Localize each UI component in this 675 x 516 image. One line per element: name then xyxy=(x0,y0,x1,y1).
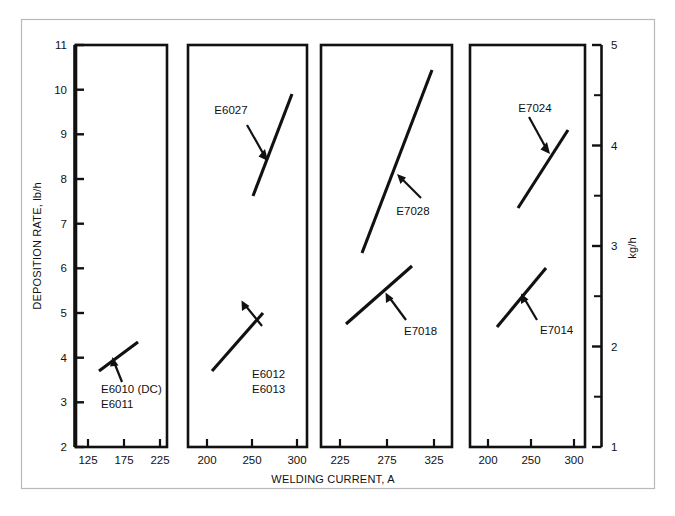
panel-3: 225 275 325 E7028 E7018 xyxy=(321,45,452,466)
panel-3-xtick-label-1: 225 xyxy=(330,454,349,466)
panel-4-xtick-label-1: 200 xyxy=(478,454,497,466)
series-label-e7024: E7024 xyxy=(518,102,552,114)
panel-4-xtick-label-3: 300 xyxy=(564,454,583,466)
x-axis-title: WELDING CURRENT, A xyxy=(271,473,395,485)
outer-frame-border xyxy=(22,20,655,489)
panel-2: 200 250 300 E6027 E6012 E6013 xyxy=(188,45,307,466)
panel-1-xtick-label-3: 225 xyxy=(150,454,169,466)
right-y-axis: 5 4 3 2 1 kg/h xyxy=(592,39,638,453)
panel-3-box xyxy=(321,45,452,447)
series-label-e6011: E6011 xyxy=(101,398,133,410)
left-tick-label-2: 2 xyxy=(61,441,67,453)
right-tick-label-5: 5 xyxy=(611,39,617,51)
panel-4-xtick-label-2: 250 xyxy=(521,454,540,466)
series-leader-e7014 xyxy=(524,298,537,320)
panel-1-xtick-label-2: 175 xyxy=(114,454,133,466)
left-tick-label-10: 10 xyxy=(54,84,67,96)
chart-svg: 11 10 9 8 7 6 5 4 3 2 DEPOSITION RATE, l… xyxy=(0,0,675,516)
series-label-e7014: E7014 xyxy=(540,324,574,336)
left-tick-label-7: 7 xyxy=(61,218,67,230)
series-label-e7028: E7028 xyxy=(396,205,429,217)
series-label-e6013: E6013 xyxy=(252,383,285,395)
series-label-e7018: E7018 xyxy=(404,325,437,337)
left-tick-label-5: 5 xyxy=(61,307,67,319)
panel-2-xtick-label-3: 300 xyxy=(287,454,306,466)
series-line-e6012-e6013 xyxy=(212,313,263,371)
series-leader-e6027 xyxy=(247,125,264,155)
deposition-rate-chart-figure: 11 10 9 8 7 6 5 4 3 2 DEPOSITION RATE, l… xyxy=(0,0,675,516)
right-tick-label-1: 1 xyxy=(611,441,617,453)
left-tick-label-6: 6 xyxy=(61,262,67,274)
series-arrowhead-e6027 xyxy=(259,149,269,161)
panel-4: 200 250 300 E7024 E7014 xyxy=(470,45,585,466)
panel-1-xtick-label-1: 125 xyxy=(78,454,97,466)
left-tick-label-11: 11 xyxy=(55,39,67,51)
left-tick-label-4: 4 xyxy=(61,352,68,364)
left-tick-label-9: 9 xyxy=(61,128,67,140)
right-tick-label-4: 4 xyxy=(611,140,618,152)
left-tick-label-8: 8 xyxy=(61,173,67,185)
panel-2-xtick-label-2: 250 xyxy=(242,454,261,466)
series-label-e6012: E6012 xyxy=(252,368,285,380)
left-tick-label-3: 3 xyxy=(61,396,67,408)
series-leader-e7024 xyxy=(529,117,546,148)
series-label-e6027: E6027 xyxy=(214,104,247,116)
series-arrowhead-e7024 xyxy=(541,142,551,154)
series-leader-e7028 xyxy=(401,178,421,198)
y-axis-title: DEPOSITION RATE, lb/h xyxy=(31,182,43,309)
series-line-e7028 xyxy=(362,70,432,253)
right-tick-label-2: 2 xyxy=(611,341,617,353)
right-tick-label-3: 3 xyxy=(611,240,617,252)
series-leader-e7018 xyxy=(389,297,406,320)
series-label-e6010: E6010 (DC) xyxy=(101,383,162,395)
panel-2-xtick-label-1: 200 xyxy=(197,454,216,466)
series-line-e6010-e6011 xyxy=(99,342,138,371)
panel-3-xtick-label-3: 325 xyxy=(424,454,443,466)
panel-1: 125 175 225 E6010 (DC) E6011 xyxy=(76,45,170,466)
panel-3-xtick-label-2: 275 xyxy=(377,454,396,466)
y-axis-title-right: kg/h xyxy=(626,237,638,259)
